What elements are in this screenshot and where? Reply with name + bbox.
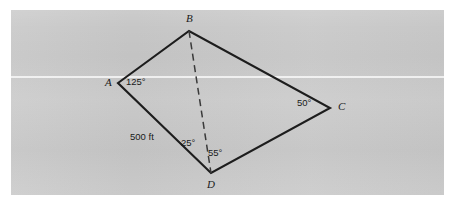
vertex-label-b: B: [186, 13, 193, 24]
angle-label-a-125: 125°: [126, 77, 146, 87]
vertex-label-c: C: [338, 101, 345, 112]
angle-label-d-25: 25°: [181, 138, 195, 148]
vertex-label-a: A: [105, 77, 112, 88]
vertex-label-d: D: [207, 179, 215, 190]
angle-label-d-55: 55°: [208, 148, 222, 158]
angle-label-c-50: 50°: [297, 98, 311, 108]
length-label-ad-500ft: 500 ft: [130, 132, 154, 142]
geometry-figure: A B C D 125° 25° 55° 50° 500 ft: [0, 0, 455, 205]
quadrilateral-diagram: [0, 0, 455, 205]
